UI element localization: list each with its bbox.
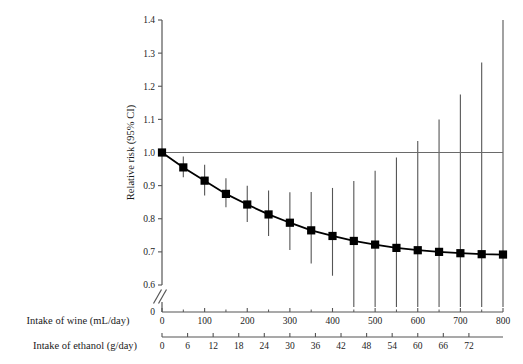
- y-tick-label: 1.4: [143, 15, 155, 25]
- x-secondary-tick-label: 6: [185, 341, 190, 351]
- x-secondary-tick-label: 36: [311, 341, 321, 351]
- y-axis-title: Relative risk (95% CI): [125, 104, 137, 200]
- data-point-marker: [222, 190, 230, 198]
- data-point-marker: [435, 248, 443, 256]
- x-tick-label: 800: [496, 316, 511, 326]
- y-tick-label: 1.1: [143, 115, 155, 125]
- x-secondary-tick-label: 72: [464, 341, 474, 351]
- data-point-marker: [243, 200, 251, 208]
- x-tick-label: 0: [160, 316, 165, 326]
- data-point-marker: [286, 219, 294, 227]
- y-tick-label: 0.8: [143, 214, 155, 224]
- x-secondary-tick-label: 54: [387, 341, 397, 351]
- x-tick-label: 600: [411, 316, 426, 326]
- data-point-marker: [371, 240, 379, 248]
- y-origin-label: 0: [150, 307, 155, 317]
- x-secondary-tick-label: 66: [439, 341, 449, 351]
- x-secondary-tick-label: 30: [285, 341, 295, 351]
- y-tick-label: 0.7: [143, 247, 155, 257]
- x-secondary-tick-label: 0: [160, 341, 165, 351]
- x-tick-label: 500: [368, 316, 383, 326]
- x-secondary-tick-label: 18: [234, 341, 244, 351]
- x-tick-label: 300: [283, 316, 298, 326]
- x-secondary-tick-label: 60: [413, 341, 423, 351]
- data-point-marker: [307, 226, 315, 234]
- y-tick-label: 0.6: [143, 280, 155, 290]
- relative-risk-chart: 0.60.70.80.91.01.11.21.31.40 01002003004…: [0, 0, 523, 364]
- data-point-marker: [456, 249, 464, 257]
- data-point-marker: [414, 246, 422, 254]
- data-point-marker: [478, 250, 486, 258]
- y-tick-label: 0.9: [143, 181, 155, 191]
- x-axis-secondary-title: Intake of ethanol (g/day): [33, 340, 138, 352]
- x-secondary-tick-label: 42: [336, 341, 346, 351]
- chart-background: [0, 0, 523, 364]
- x-secondary-tick-label: 24: [260, 341, 270, 351]
- data-point-marker: [179, 163, 187, 171]
- data-point-marker: [350, 237, 358, 245]
- x-tick-label: 200: [240, 316, 255, 326]
- y-tick-label: 1.3: [143, 49, 155, 59]
- data-point-marker: [392, 244, 400, 252]
- data-point-marker: [264, 210, 272, 218]
- x-tick-label: 400: [325, 316, 340, 326]
- x-tick-label: 100: [198, 316, 213, 326]
- x-secondary-tick-label: 12: [208, 341, 218, 351]
- x-tick-label: 700: [453, 316, 468, 326]
- chart-figure: 0.60.70.80.91.01.11.21.31.40 01002003004…: [0, 0, 523, 364]
- data-point-marker: [158, 148, 166, 156]
- x-secondary-tick-label: 48: [362, 341, 372, 351]
- data-point-marker: [328, 232, 336, 240]
- y-tick-label: 1.0: [143, 148, 155, 158]
- data-point-marker: [499, 250, 507, 258]
- data-point-marker: [201, 177, 209, 185]
- y-tick-label: 1.2: [143, 82, 155, 92]
- x-axis-primary-title: Intake of wine (mL/day): [27, 315, 130, 327]
